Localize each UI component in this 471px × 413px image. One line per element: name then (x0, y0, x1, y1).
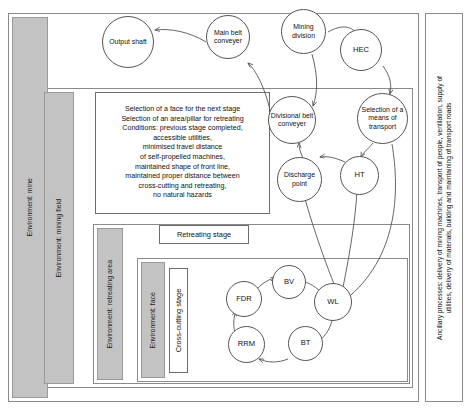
ancillary-caption-line-0: Ancillary processes: delivery of mining … (435, 76, 444, 340)
environment-band-mine: Environment: mine (12, 17, 48, 398)
environment-label-mining-field: Environment: mining field (55, 199, 64, 278)
environment-band-face: Environment: face (141, 262, 165, 378)
node-selection-of-a-means-of-transport[interactable]: Selection of a means of transport (357, 93, 408, 144)
retreating-stage-box: Retreating stage (159, 225, 249, 244)
conditions-line-1: Selection of an area/pillar for retreati… (121, 115, 243, 125)
conditions-line-4: minimised travel distance (121, 143, 243, 153)
conditions-text: Selection of a face for the next stageSe… (117, 103, 247, 203)
cross-cutting-stage-label: Cross-cutting stage (174, 289, 183, 353)
node-discharge-point-label: Discharge point (278, 171, 321, 188)
node-divisional-belt-conveyer[interactable]: Divisional belt conveyer (268, 96, 316, 144)
node-ht-label: HT (354, 171, 364, 179)
environment-label-face: Environment: face (149, 292, 158, 348)
conditions-line-6: maintained shape of front line, (121, 163, 243, 173)
node-divisional-belt-conveyer-label: Divisional belt conveyer (269, 112, 315, 129)
cross-cutting-stage-box: Cross-cutting stage (169, 268, 188, 373)
node-ht[interactable]: HT (340, 156, 379, 195)
node-output-shaft-label: Output shaft (109, 38, 147, 46)
environment-label-retreating-area: Environment: retreating area (106, 260, 115, 349)
conditions-line-9: no natural hazards (121, 191, 243, 201)
node-mining-division[interactable]: Mining division (281, 9, 326, 54)
conditions-line-0: Selection of a face for the next stage (121, 105, 243, 115)
node-bt[interactable]: BT (288, 326, 323, 361)
node-fdr[interactable]: FDR (226, 281, 262, 317)
conditions-box: Selection of a face for the next stageSe… (95, 92, 270, 214)
node-fdr-label: FDR (236, 295, 252, 303)
ancillary-processes-panel: Ancillary processes: delivery of mining … (425, 13, 463, 402)
diagram-canvas: Environment: mine Environment: mining fi… (0, 0, 471, 413)
node-output-shaft[interactable]: Output shaft (102, 16, 154, 68)
node-wl[interactable]: WL (314, 283, 352, 321)
node-main-belt-conveyer[interactable]: Main belt conveyer (206, 15, 250, 59)
environment-band-mining-field: Environment: mining field (44, 92, 74, 384)
node-wl-label: WL (327, 298, 338, 306)
conditions-line-5: of self-propelled machines, (121, 153, 243, 163)
environment-label-mine: Environment: mine (26, 178, 35, 236)
environment-band-retreating-area: Environment: retreating area (97, 228, 123, 380)
node-discharge-point[interactable]: Discharge point (277, 157, 322, 202)
node-rrm[interactable]: RRM (228, 326, 265, 363)
node-main-belt-conveyer-label: Main belt conveyer (207, 29, 249, 46)
node-hec-label: HEC (353, 46, 369, 54)
conditions-line-8: cross-cutting and retreating, (121, 182, 243, 192)
node-bv-label: BV (284, 278, 294, 286)
node-rrm-label: RRM (238, 340, 255, 348)
conditions-line-2: Conditions: previous stage completed, (121, 124, 243, 134)
node-selection-of-a-means-of-transport-label: Selection of a means of transport (358, 106, 407, 131)
conditions-line-3: accessible utilities, (121, 134, 243, 144)
node-hec[interactable]: HEC (340, 29, 382, 71)
ancillary-caption-line-1: utilities, delivery of materials, buildi… (444, 76, 453, 340)
conditions-line-7: maintained proper distance between (121, 172, 243, 182)
node-bv[interactable]: BV (272, 265, 306, 299)
ancillary-processes-caption: Ancillary processes: delivery of mining … (435, 76, 453, 340)
node-mining-division-label: Mining division (282, 23, 325, 40)
retreating-stage-label: Retreating stage (177, 230, 231, 239)
node-bt-label: BT (301, 339, 311, 347)
